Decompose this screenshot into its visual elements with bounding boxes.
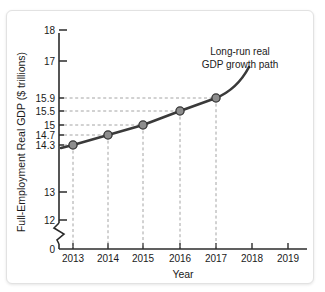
long-run-growth-path-series	[61, 67, 249, 149]
y-axis-title: Full-Employment Real GDP ($ trillions)	[15, 52, 27, 232]
x-tick-label-2018: 2018	[241, 253, 264, 264]
guide-lines	[64, 98, 216, 247]
x-tick-label-2019: 2019	[277, 253, 300, 264]
x-axis: 2013 2014 2015 2016 2017 2018 2019 Year	[59, 243, 307, 280]
y-axis-break-icon	[54, 223, 64, 244]
y-tick-label-17: 17	[44, 56, 56, 67]
data-point-2016	[176, 107, 184, 115]
chart-card: 18 17 15.9 15.5 15 14.7 14.3 13 12 0 Ful…	[6, 10, 314, 284]
data-point-2017	[212, 94, 220, 102]
y-tick-label-18: 18	[44, 25, 56, 36]
gdp-growth-line-chart: 18 17 15.9 15.5 15 14.7 14.3 13 12 0 Ful…	[7, 11, 313, 283]
x-tick-label-2013: 2013	[62, 253, 85, 264]
x-tick-label-2015: 2015	[132, 253, 155, 264]
y-tick-label-12: 12	[44, 215, 56, 226]
y-tick-label-14-3: 14.3	[36, 140, 56, 151]
x-axis-title: Year	[172, 268, 194, 280]
data-point-2014	[104, 131, 112, 139]
growth-path-callout: Long-run real GDP growth path	[202, 46, 279, 70]
y-tick-label-15-5: 15.5	[36, 106, 56, 117]
y-axis: 18 17 15.9 15.5 15 14.7 14.3 13 12 0 Ful…	[15, 25, 67, 256]
data-point-2015	[139, 121, 147, 129]
y-tick-label-13: 13	[44, 187, 56, 198]
x-tick-label-2014: 2014	[97, 253, 120, 264]
series-line-long-run-gdp-path	[61, 67, 249, 148]
callout-line-2: GDP growth path	[202, 59, 279, 70]
x-tick-label-2017: 2017	[205, 253, 228, 264]
data-point-2013	[69, 141, 77, 149]
callout-line-1: Long-run real	[210, 46, 269, 57]
y-tick-label-15-9: 15.9	[36, 93, 56, 104]
y-tick-label-0: 0	[49, 244, 55, 255]
x-tick-label-2016: 2016	[169, 253, 192, 264]
